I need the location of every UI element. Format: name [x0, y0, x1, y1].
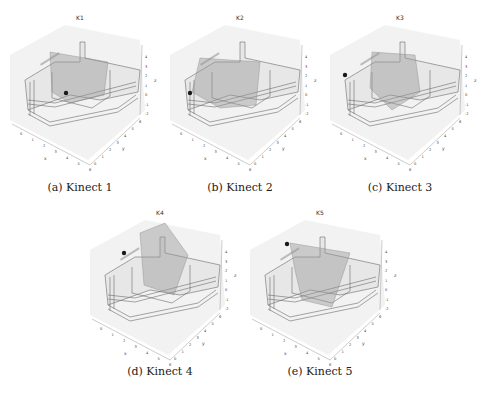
x-tick-label: 1	[32, 138, 34, 142]
y-tick-label: 0	[174, 357, 177, 361]
3d-plot: 0123456x0123456y43210-1-2z	[80, 195, 240, 370]
z-tick-label: 0	[225, 288, 228, 292]
y-tick-label: 5	[292, 127, 294, 131]
x-tick-label: 1	[112, 333, 114, 337]
x-axis-label: x	[204, 156, 207, 161]
z-axis-label: z	[394, 273, 397, 278]
y-tick-label: 4	[284, 134, 287, 138]
y-tick-label: 6	[379, 315, 382, 319]
x-axis-label: x	[284, 351, 287, 356]
y-axis-label: y	[202, 341, 205, 346]
x-axis-label: x	[124, 351, 127, 356]
caption-b: (b) Kinect 2	[160, 181, 320, 194]
x-tick-label: 4	[306, 351, 309, 355]
panel-kinect-3: 0123456x0123456y43210-1-2z K3	[320, 0, 480, 175]
y-tick-label: 2	[189, 343, 191, 347]
y-tick-label: 4	[364, 329, 367, 333]
z-tick-label: 3	[305, 65, 307, 69]
z-tick-label: 4	[225, 250, 228, 254]
x-tick-label: 3	[215, 150, 217, 154]
z-tick-label: 1	[385, 279, 387, 283]
z-tick-label: -1	[385, 298, 389, 302]
x-axis-label: x	[44, 156, 47, 161]
3d-plot: 0123456x0123456y43210-1-2z	[240, 195, 400, 370]
z-tick-label: 0	[305, 93, 308, 97]
y-tick-label: 4	[444, 134, 447, 138]
z-tick-label: 0	[385, 288, 388, 292]
z-tick-label: 0	[465, 93, 468, 97]
y-tick-label: 2	[269, 148, 271, 152]
3d-plot: 0123456x0123456y43210-1-2z	[320, 0, 480, 175]
x-tick-label: 1	[192, 138, 194, 142]
z-tick-label: -1	[145, 103, 149, 107]
panel-kinect-5: 0123456x0123456y43210-1-2z K5	[240, 195, 400, 370]
z-tick-label: 3	[225, 260, 227, 264]
y-tick-label: 0	[94, 162, 97, 166]
x-tick-label: 3	[135, 345, 137, 349]
x-tick-label: 6	[409, 168, 412, 172]
x-tick-label: 3	[55, 150, 57, 154]
z-tick-label: 3	[465, 65, 467, 69]
x-tick-label: 5	[78, 162, 80, 166]
y-tick-label: 3	[197, 336, 199, 340]
caption-a: (a) Kinect 1	[0, 181, 160, 194]
y-tick-label: 3	[117, 141, 119, 145]
y-tick-label: 5	[132, 127, 134, 131]
x-tick-label: 5	[398, 162, 400, 166]
y-tick-label: 3	[357, 336, 359, 340]
x-axis-label: x	[364, 156, 367, 161]
z-tick-label: -2	[385, 307, 389, 311]
z-tick-label: -1	[305, 103, 309, 107]
caption-c: (c) Kinect 3	[320, 181, 480, 194]
x-tick-label: 4	[146, 351, 149, 355]
3d-plot: 0123456x0123456y43210-1-2z	[160, 0, 320, 175]
y-tick-label: 3	[277, 141, 279, 145]
z-tick-label: 0	[145, 93, 148, 97]
3d-plot: 0123456x0123456y43210-1-2z	[0, 0, 160, 175]
y-axis-label: y	[362, 341, 365, 346]
z-tick-label: 1	[145, 84, 147, 88]
x-tick-label: 1	[272, 333, 274, 337]
caption-d: (d) Kinect 4	[80, 365, 240, 378]
z-tick-label: 4	[385, 250, 388, 254]
y-tick-label: 0	[254, 162, 257, 166]
z-tick-label: 4	[465, 55, 468, 59]
z-tick-label: 1	[465, 84, 467, 88]
x-tick-label: 2	[203, 144, 205, 148]
panel-kinect-1: 0123456x0123456y43210-1-2z K1	[0, 0, 160, 175]
z-tick-label: -2	[305, 112, 309, 116]
x-tick-label: 1	[352, 138, 354, 142]
z-tick-label: -1	[465, 103, 469, 107]
y-tick-label: 6	[219, 315, 222, 319]
x-tick-label: 5	[318, 357, 320, 361]
y-tick-label: 0	[414, 162, 417, 166]
x-tick-label: 2	[363, 144, 365, 148]
x-tick-label: 5	[158, 357, 160, 361]
y-tick-label: 1	[182, 350, 184, 354]
plot-title: K4	[80, 209, 240, 216]
z-tick-label: 2	[305, 74, 307, 78]
z-tick-label: 1	[305, 84, 307, 88]
z-tick-label: 2	[465, 74, 467, 78]
z-tick-label: 4	[145, 55, 148, 59]
z-axis-label: z	[234, 273, 237, 278]
z-axis-label: z	[474, 78, 477, 83]
z-tick-label: 3	[145, 65, 147, 69]
y-axis-label: y	[282, 146, 285, 151]
z-tick-label: -2	[145, 112, 149, 116]
x-tick-label: 6	[249, 168, 252, 172]
x-tick-label: 6	[89, 168, 92, 172]
y-tick-label: 1	[102, 155, 104, 159]
y-axis-label: y	[442, 146, 445, 151]
z-tick-label: -1	[225, 298, 229, 302]
x-tick-label: 3	[375, 150, 377, 154]
plot-title: K5	[240, 209, 400, 216]
z-tick-label: 4	[305, 55, 308, 59]
panel-kinect-4: 0123456x0123456y43210-1-2z K4	[80, 195, 240, 370]
y-tick-label: 2	[109, 148, 111, 152]
y-tick-label: 4	[204, 329, 207, 333]
z-tick-label: 2	[145, 74, 147, 78]
x-tick-label: 4	[386, 156, 389, 160]
camera-marker	[122, 251, 126, 255]
z-axis-label: z	[154, 78, 157, 83]
